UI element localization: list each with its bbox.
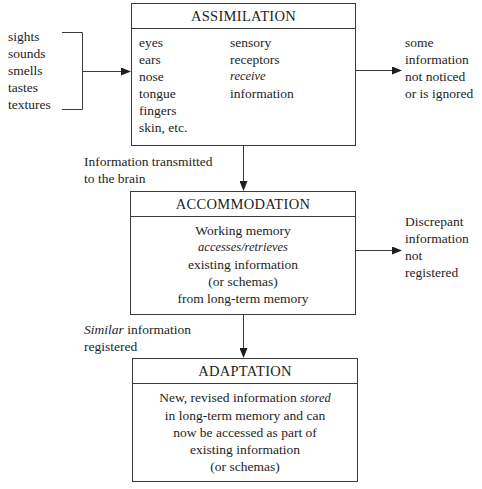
receptor-line-italic: receive [230, 68, 294, 85]
organ-item: skin, etc. [139, 119, 187, 136]
side-line: or is ignored [405, 85, 473, 102]
ignored-info-text: some information not noticed or is ignor… [405, 34, 473, 102]
input-item: smells [8, 62, 51, 79]
assimilation-box: ASSIMILATION eyes ears nose tongue finge… [131, 3, 356, 146]
side-line: registered [405, 264, 469, 281]
body-line: existing information [131, 256, 355, 273]
body-line: (or schemas) [133, 458, 357, 475]
body-text: New, revised information [159, 390, 300, 405]
receptor-text: sensory receptors receive information [230, 34, 294, 102]
assimilation-title: ASSIMILATION [132, 4, 355, 29]
input-item: sights [8, 28, 51, 45]
input-bracket [62, 33, 83, 110]
organ-item: ears [139, 51, 187, 68]
organ-item: eyes [139, 34, 187, 51]
input-item: textures [8, 96, 51, 113]
organ-item: nose [139, 68, 187, 85]
label-line: Information transmitted [84, 153, 213, 170]
label-line: registered [84, 338, 191, 355]
accommodation-box: ACCOMMODATION Working memory accesses/re… [130, 191, 356, 315]
organs-list: eyes ears nose tongue fingers skin, etc. [139, 34, 187, 136]
receptor-line: sensory [230, 34, 294, 51]
side-line: not [405, 247, 469, 264]
side-line: not noticed [405, 68, 473, 85]
body-line: Working memory [131, 222, 355, 239]
input-item: sounds [8, 45, 51, 62]
body-line: in long-term memory and can [133, 407, 357, 424]
body-line: from long-term memory [131, 290, 355, 307]
receptor-line: receptors [230, 51, 294, 68]
similar-registered-label: Similar information registered [84, 321, 191, 355]
side-line: information [405, 51, 473, 68]
label-line: Similar information [84, 321, 191, 338]
body-line: (or schemas) [131, 273, 355, 290]
adaptation-body: New, revised information stored in long-… [133, 389, 357, 475]
adaptation-title: ADAPTATION [133, 359, 357, 384]
side-line: information [405, 230, 469, 247]
sensory-inputs-list: sights sounds smells tastes textures [8, 28, 51, 113]
organ-item: fingers [139, 102, 187, 119]
transmitted-label: Information transmitted to the brain [84, 153, 213, 187]
label-italic: Similar [84, 322, 124, 337]
adaptation-box: ADAPTATION New, revised information stor… [132, 358, 358, 482]
label-rest: information [124, 322, 191, 337]
label-line: to the brain [84, 170, 213, 187]
side-line: some [405, 34, 473, 51]
body-line: existing information [133, 441, 357, 458]
organ-item: tongue [139, 85, 187, 102]
input-item: tastes [8, 79, 51, 96]
discrepant-info-text: Discrepant information not registered [405, 213, 469, 281]
body-line: now be accessed as part of [133, 424, 357, 441]
accommodation-title: ACCOMMODATION [131, 192, 355, 217]
side-line: Discrepant [405, 213, 469, 230]
body-italic: stored [300, 391, 331, 405]
accommodation-body: Working memory accesses/retrieves existi… [131, 222, 355, 307]
body-line-italic: accesses/retrieves [131, 239, 355, 256]
receptor-line: information [230, 85, 294, 102]
body-line: New, revised information stored [133, 389, 357, 407]
